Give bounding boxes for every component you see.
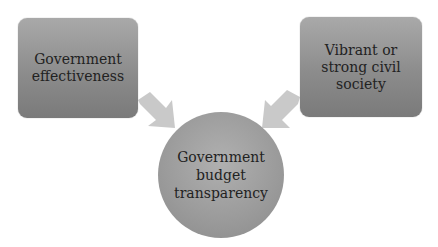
node-label: Government effectiveness	[32, 51, 124, 85]
node-label: Vibrant or strong civil society	[321, 42, 401, 93]
node-government-effectiveness: Government effectiveness	[18, 18, 138, 118]
node-budget-transparency: Government budget transparency	[158, 112, 284, 238]
node-civil-society: Vibrant or strong civil society	[300, 17, 422, 117]
node-label: Government budget transparency	[174, 148, 268, 202]
arrow-left-to-center	[138, 92, 175, 128]
arrow-right-to-center	[262, 90, 300, 128]
